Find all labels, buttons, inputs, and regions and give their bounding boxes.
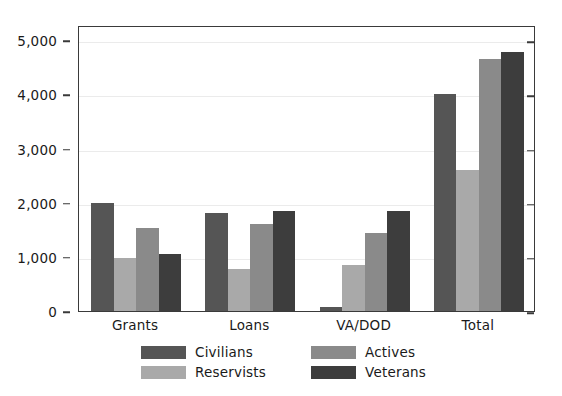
bar-group xyxy=(320,27,410,311)
legend-label-civilians: Civilians xyxy=(195,344,253,360)
bar-veterans-loans xyxy=(273,211,296,311)
y-tick-label: 5,000 xyxy=(17,33,57,49)
legend-swatch-actives xyxy=(311,346,356,359)
y-axis: 01,0002,0003,0004,0005,000 xyxy=(0,26,70,312)
bar-veterans-va-dod xyxy=(387,211,410,311)
bar-reservists-loans xyxy=(228,269,251,311)
bar-veterans-total xyxy=(501,52,524,311)
y-tick-mark xyxy=(63,149,70,151)
bar-group xyxy=(205,27,295,311)
x-tick-label-total: Total xyxy=(462,317,495,333)
y-tick-mark xyxy=(63,257,70,259)
legend-label-veterans: Veterans xyxy=(365,364,426,380)
bar-actives-total xyxy=(479,59,502,311)
bar-veterans-grants xyxy=(159,254,182,311)
bar-actives-loans xyxy=(250,224,273,311)
bars-layer xyxy=(79,27,534,311)
x-tick-label-va-dod: VA/DOD xyxy=(336,317,391,333)
bar-reservists-grants xyxy=(114,258,137,311)
bar-reservists-va-dod xyxy=(342,265,365,311)
bar-reservists-total xyxy=(456,170,479,311)
y-tick-mark xyxy=(63,95,70,97)
x-axis: GrantsLoansVA/DODTotal xyxy=(78,314,535,340)
legend-swatch-reservists xyxy=(141,366,186,379)
plot-area xyxy=(78,26,535,312)
chart-legend: CiviliansActivesReservistsVeterans xyxy=(141,342,441,382)
legend-label-reservists: Reservists xyxy=(195,364,266,380)
bar-group xyxy=(91,27,181,311)
bar-civilians-grants xyxy=(91,203,114,311)
bar-civilians-va-dod xyxy=(320,307,343,311)
y-tick-mark xyxy=(63,203,70,205)
x-tick-label-loans: Loans xyxy=(229,317,269,333)
legend-item-civilians[interactable]: Civilians xyxy=(141,344,311,360)
y-tick-label: 1,000 xyxy=(17,250,57,266)
legend-swatch-veterans xyxy=(311,366,356,379)
bar-civilians-loans xyxy=(205,213,228,311)
bar-civilians-total xyxy=(434,94,457,311)
bar-actives-va-dod xyxy=(365,233,388,311)
legend-label-actives: Actives xyxy=(365,344,415,360)
legend-item-reservists[interactable]: Reservists xyxy=(141,364,311,380)
bar-group xyxy=(434,27,524,311)
y-tick-label: 2,000 xyxy=(17,196,57,212)
y-tick-label: 3,000 xyxy=(17,142,57,158)
legend-swatch-civilians xyxy=(141,346,186,359)
legend-item-veterans[interactable]: Veterans xyxy=(311,364,471,380)
legend-item-actives[interactable]: Actives xyxy=(311,344,471,360)
y-tick-label: 4,000 xyxy=(17,87,57,103)
y-tick-mark xyxy=(63,40,70,42)
y-tick-mark xyxy=(63,311,70,313)
bar-chart: 01,0002,0003,0004,0005,000 GrantsLoansVA… xyxy=(0,0,562,396)
bar-actives-grants xyxy=(136,228,159,311)
y-tick-label: 0 xyxy=(48,304,57,320)
x-tick-label-grants: Grants xyxy=(112,317,158,333)
